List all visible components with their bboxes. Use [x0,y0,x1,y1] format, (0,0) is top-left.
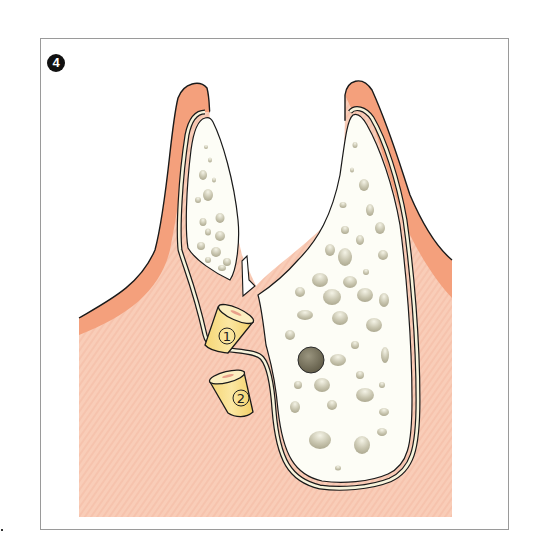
cone-1-label: 1 [223,329,231,344]
alveolar-ridge-illustration: 1 2 [0,0,538,556]
nerve-canal [298,347,324,373]
buccal-bone-plate [186,118,238,280]
cone-2-label: 2 [237,391,245,406]
